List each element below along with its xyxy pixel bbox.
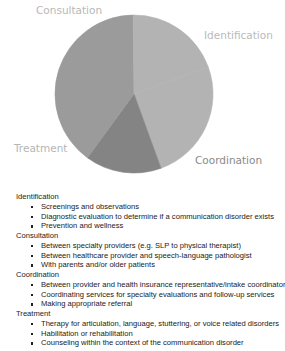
role-description-list: Identification Screenings and observatio… xyxy=(16,192,285,348)
bullet-icon xyxy=(31,206,33,208)
bullet-icon xyxy=(31,264,33,266)
group-coordination: Coordination Between provider and health… xyxy=(16,270,285,309)
list-item: Between healthcare provider and speech-l… xyxy=(16,251,285,261)
list-item: Prevention and wellness xyxy=(16,221,285,231)
list-item: Making appropriate referral xyxy=(16,299,285,309)
list-item: Between specialty providers (e.g. SLP to… xyxy=(16,241,285,251)
bullet-icon xyxy=(31,216,33,218)
list-item: Coordinating services for specialty eval… xyxy=(16,290,285,300)
group-title: Treatment xyxy=(16,309,285,319)
list-item: Counseling within the context of the com… xyxy=(16,338,285,348)
bullet-icon xyxy=(31,303,33,305)
bullet-icon xyxy=(31,333,33,335)
group-title: Consultation xyxy=(16,231,285,241)
list-item: Habilitation or rehabilitation xyxy=(16,329,285,339)
bullet-icon xyxy=(31,342,33,344)
bullet-icon xyxy=(31,294,33,296)
group-identification: Identification Screenings and observatio… xyxy=(16,192,285,231)
bullet-icon xyxy=(31,245,33,247)
pie-label-coordination: Coordination xyxy=(195,154,262,166)
bullet-icon xyxy=(31,284,33,286)
bullet-icon xyxy=(31,255,33,257)
pie-label-treatment: Treatment xyxy=(14,142,67,154)
list-item: Diagnostic evaluation to determine if a … xyxy=(16,212,285,222)
pie-label-identification: Identification xyxy=(204,29,273,41)
group-consultation: Consultation Between specialty providers… xyxy=(16,231,285,270)
list-item: Screenings and observations xyxy=(16,202,285,212)
list-item: Therapy for articulation, language, stut… xyxy=(16,319,285,329)
bullet-icon xyxy=(31,225,33,227)
group-title: Identification xyxy=(16,192,285,202)
bullet-icon xyxy=(31,323,33,325)
group-title: Coordination xyxy=(16,270,285,280)
list-item: With parents and/or older patients xyxy=(16,260,285,270)
list-item: Between provider and health insurance re… xyxy=(16,280,285,290)
group-treatment: Treatment Therapy for articulation, lang… xyxy=(16,309,285,348)
pie-label-consultation: Consultation xyxy=(36,4,102,16)
